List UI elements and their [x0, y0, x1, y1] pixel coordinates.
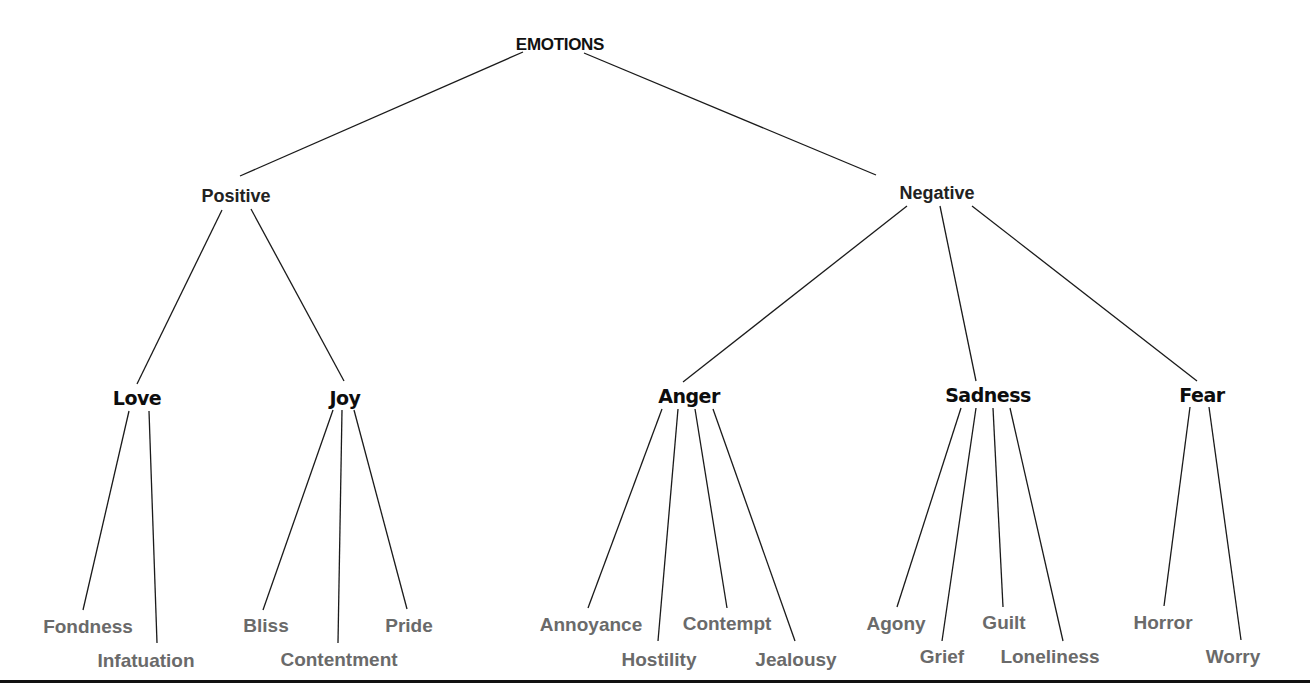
edge-love-fondness — [83, 411, 129, 610]
node-contempt: Contempt — [683, 614, 772, 633]
node-guilt: Guilt — [982, 613, 1025, 632]
edge-fear-horror — [1164, 407, 1190, 606]
edge-joy-pride — [354, 410, 407, 609]
node-worry: Worry — [1206, 647, 1261, 666]
edge-sadness-guilt — [993, 408, 1003, 607]
edge-emotions-negative — [584, 53, 876, 175]
node-emotions: EMOTIONS — [516, 36, 604, 53]
node-contentment: Contentment — [280, 650, 397, 669]
node-grief: Grief — [920, 647, 964, 666]
edge-positive-love — [137, 210, 222, 384]
edge-sadness-loneliness — [1010, 408, 1063, 641]
edge-anger-annoyance — [588, 409, 662, 608]
node-fondness: Fondness — [43, 617, 133, 636]
edge-negative-sadness — [940, 206, 976, 381]
edge-fear-worry — [1209, 407, 1241, 640]
node-anger: Anger — [658, 387, 720, 406]
node-hostility: Hostility — [622, 650, 697, 669]
tree-edges — [0, 0, 1310, 694]
edge-positive-joy — [251, 209, 344, 381]
node-loneliness: Loneliness — [1000, 647, 1099, 666]
edge-joy-contentment — [338, 410, 342, 643]
node-bliss: Bliss — [243, 616, 288, 635]
node-jealousy: Jealousy — [755, 650, 836, 669]
edge-sadness-grief — [942, 408, 976, 641]
edge-joy-bliss — [263, 410, 333, 610]
edge-love-infatuation — [149, 411, 157, 643]
edge-negative-anger — [683, 206, 907, 382]
node-agony: Agony — [866, 614, 925, 633]
bottom-rule — [0, 680, 1310, 683]
node-annoyance: Annoyance — [540, 615, 642, 634]
node-negative: Negative — [899, 184, 974, 202]
node-joy: Joy — [329, 389, 360, 408]
edge-emotions-positive — [240, 52, 523, 176]
node-pride: Pride — [385, 616, 433, 635]
edge-anger-hostility — [658, 409, 678, 641]
node-horror: Horror — [1133, 613, 1192, 632]
node-sadness: Sadness — [945, 386, 1031, 405]
node-infatuation: Infatuation — [97, 651, 194, 670]
node-love: Love — [113, 389, 161, 408]
edge-negative-fear — [972, 206, 1197, 381]
edge-anger-jealousy — [713, 409, 795, 641]
edge-anger-contempt — [695, 409, 727, 608]
node-fear: Fear — [1179, 386, 1224, 405]
node-positive: Positive — [201, 187, 270, 205]
